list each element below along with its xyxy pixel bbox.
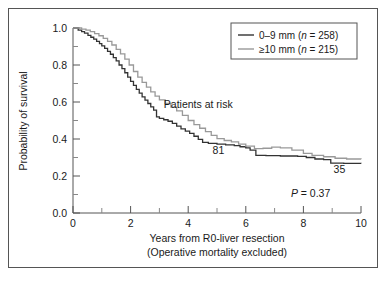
legend-prefix: ≥10 mm ( xyxy=(259,44,302,55)
y-tick-label: 0.2 xyxy=(52,170,67,182)
p-value-label: P = 0.37 xyxy=(291,187,331,199)
patients-at-risk-label: Patients at risk xyxy=(164,98,234,110)
legend-label-10mm-plus: ≥10 mm (n = 215) xyxy=(259,44,338,55)
legend-prefix: 0–9 mm ( xyxy=(259,30,302,41)
x-axis-subtitle: (Operative mortality excluded) xyxy=(147,246,287,258)
y-axis-title: Probability of survival xyxy=(17,71,29,170)
y-tick-label: 0.8 xyxy=(52,59,67,71)
x-tick-label: 4 xyxy=(185,217,191,229)
x-tick-label: 6 xyxy=(243,217,249,229)
legend-label-0-9mm: 0–9 mm (n = 258) xyxy=(259,30,338,41)
legend-suffix: = 258) xyxy=(307,30,338,41)
y-axis-ticks: 0.00.20.40.60.81.0 xyxy=(52,22,80,219)
x-tick-label: 0 xyxy=(70,217,76,229)
at-risk-count-black: 81 xyxy=(213,144,225,156)
p-value-number: = 0.37 xyxy=(298,187,331,199)
x-axis-title: Years from R0-liver resection xyxy=(150,232,285,244)
y-tick-label: 1.0 xyxy=(52,22,67,34)
survival-chart: 0.00.20.40.60.81.0 0246810 Patients at r… xyxy=(9,9,377,267)
y-tick-label: 0.4 xyxy=(52,133,67,145)
x-tick-label: 10 xyxy=(355,217,367,229)
chart-annotations: Patients at risk8135 xyxy=(164,98,346,175)
x-tick-label: 8 xyxy=(300,217,306,229)
figure-frame: 0.00.20.40.60.81.0 0246810 Patients at r… xyxy=(8,8,378,268)
y-tick-label: 0.6 xyxy=(52,96,67,108)
x-tick-label: 2 xyxy=(128,217,134,229)
y-tick-label: 0.0 xyxy=(52,207,67,219)
legend-suffix: = 215) xyxy=(307,44,338,55)
at-risk-count-gray: 35 xyxy=(334,163,346,175)
x-axis-ticks: 0246810 xyxy=(70,206,367,229)
legend: 0–9 mm (n = 258) ≥10 mm (n = 215) xyxy=(231,23,357,59)
p-symbol: P xyxy=(291,187,298,199)
